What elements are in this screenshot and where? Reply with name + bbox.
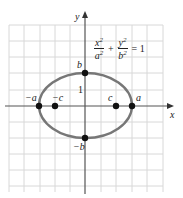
x-axis-label: x [170,110,174,120]
y-axis-label: y [75,12,79,22]
equals-one: = 1 [132,43,145,54]
label-neg-c: −c [52,93,63,103]
label-a: a [136,93,141,103]
y-axis-arrow-icon [82,11,88,18]
label-neg-b: −b [73,142,85,152]
ellipse-equation: x2 a2 + y2 b2 = 1 [94,36,145,62]
y-term: y2 b2 [118,36,128,62]
tick-label-1: 1 [78,85,83,95]
label-c: c [108,93,112,103]
label-neg-a: −a [25,93,37,103]
axes [5,16,170,194]
x-term: x2 a2 [94,36,104,62]
plus-sign: + [108,43,114,54]
label-b: b [77,60,82,70]
